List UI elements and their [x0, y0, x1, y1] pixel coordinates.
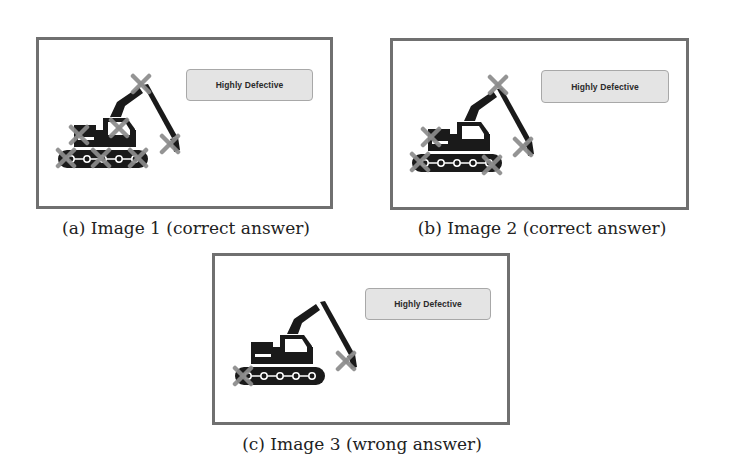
excavator-icon — [39, 40, 336, 212]
panel-image-3: Highly Defective — [212, 253, 510, 425]
defect-badge: Highly Defective — [541, 70, 669, 103]
caption-c: (c) Image 3 (wrong answer) — [206, 434, 518, 454]
excavator-icon — [393, 41, 692, 213]
panel-image-2: Highly Defective — [390, 38, 689, 210]
defect-badge: Highly Defective — [365, 288, 491, 320]
excavator-icon — [215, 256, 513, 428]
defect-badge: Highly Defective — [186, 69, 313, 101]
caption-a: (a) Image 1 (correct answer) — [30, 218, 342, 238]
x-mark-icon — [133, 76, 149, 92]
caption-b: (b) Image 2 (correct answer) — [386, 218, 698, 238]
panel-image-1: Highly Defective — [36, 37, 333, 209]
